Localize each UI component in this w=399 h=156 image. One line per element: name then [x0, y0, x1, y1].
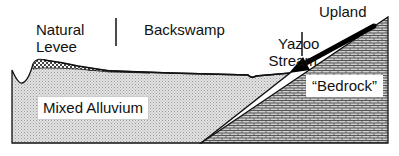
natural-levee-label: Natural Levee: [36, 21, 84, 55]
natural-levee-label-line1: Natural: [36, 21, 84, 38]
bedrock-label: “Bedrock”: [306, 75, 383, 97]
yazoo-stream-label-line1: Yazoo: [272, 35, 319, 52]
mixed-alluvium-label: Mixed Alluvium: [37, 96, 149, 120]
natural-levee-label-line2: Levee: [36, 38, 84, 55]
backswamp-label: Backswamp: [144, 21, 225, 38]
yazoo-stream-label: Yazoo Stream: [272, 35, 319, 69]
yazoo-stream-label-line2: Stream: [266, 52, 319, 69]
upland-label: Upland: [319, 3, 367, 20]
